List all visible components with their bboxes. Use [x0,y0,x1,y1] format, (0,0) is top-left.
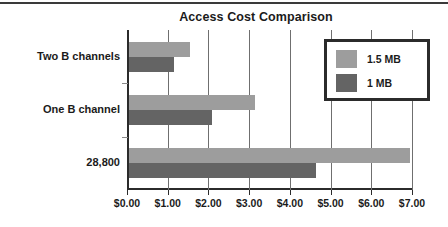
chart-title: Access Cost Comparison [0,10,448,24]
x-axis-tick-6 [371,190,372,195]
x-axis-line [127,188,412,190]
bar-0-0 [129,42,190,57]
bar-2-1 [129,163,316,178]
x-axis-tick-0 [127,190,128,195]
x-axis-tick-1 [168,190,169,195]
y-axis-separator-tick-1 [122,137,128,138]
category-label-text-0: Two B channels [37,50,120,62]
legend-swatch-1-5mb [336,50,357,68]
top-rule-divider [0,2,448,4]
legend-item-1-5mb: 1.5 MB [336,48,401,69]
bar-1-0 [129,95,255,110]
x-axis-tick-3 [249,190,250,195]
x-axis-tick-5 [331,190,332,195]
y-axis-separator-tick-0 [122,83,128,84]
bar-2-0 [129,148,410,163]
legend-item-1mb: 1 MB [336,72,392,93]
x-axis-tick-4 [290,190,291,195]
bar-0-1 [129,57,174,72]
x-axis-tick-7 [412,190,413,195]
x-axis-label-7: $7.00 [382,197,442,209]
x-axis-tick-2 [208,190,209,195]
category-label-text-1: One B channel [43,103,120,115]
chart-figure: Access Cost Comparison Two B channelsOne… [0,0,448,227]
bar-1-1 [129,110,212,125]
legend-swatch-1mb [336,74,357,92]
legend: 1.5 MB 1 MB [324,39,430,101]
legend-label-1mb: 1 MB [367,77,392,89]
category-label-text-2: 28,800 [86,156,120,168]
legend-label-1-5mb: 1.5 MB [367,53,401,65]
